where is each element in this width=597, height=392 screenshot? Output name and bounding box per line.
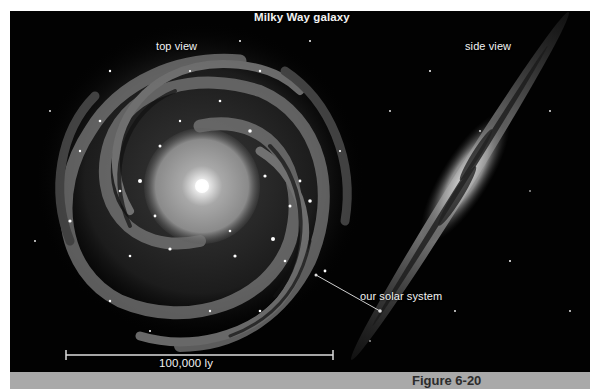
- scale-bar-label: 100,000 ly: [159, 357, 213, 369]
- solar-system-label: our solar system: [360, 290, 442, 302]
- figure-caption: Figure 6-20: [412, 372, 481, 389]
- galactic-core: [195, 179, 209, 193]
- side-view-galaxy: [331, 11, 589, 372]
- side-view-label: side view: [465, 40, 511, 52]
- top-view-label: top view: [156, 40, 197, 52]
- galaxy-illustration: [10, 11, 590, 372]
- caption-bar: Figure 6-20: [10, 372, 590, 389]
- solar-system-position-top: [315, 274, 318, 277]
- solar-system-position-side: [378, 309, 382, 313]
- figure-title: Milky Way galaxy: [254, 11, 350, 23]
- milky-way-figure: Milky Way galaxy top view side view our …: [10, 11, 590, 372]
